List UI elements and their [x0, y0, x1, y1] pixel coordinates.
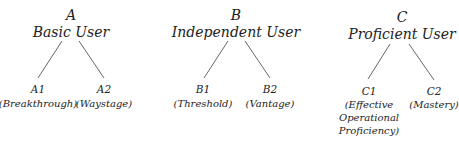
link-b-b2	[245, 41, 270, 78]
link-a-a1	[38, 41, 62, 78]
sublevel-label: A2	[97, 84, 111, 95]
description-line: Operational	[339, 111, 400, 124]
group-title: Basic User	[33, 25, 110, 39]
group-title: Proficient User	[348, 27, 456, 41]
link-a-a2	[79, 41, 104, 78]
sublevel-description: (Breakthrough)	[0, 97, 77, 110]
sublevel-description: (Waystage)	[76, 97, 132, 110]
level-label: B	[231, 8, 241, 22]
level-label: A	[66, 8, 76, 22]
link-c-c2	[409, 44, 434, 80]
level-label: C	[397, 10, 408, 24]
description-line: Proficiency)	[339, 124, 400, 137]
sublevel-description: (Mastery)	[409, 98, 459, 111]
sublevel-description: (Effective Operational Proficiency)	[339, 98, 400, 137]
sublevel-label: C1	[362, 86, 377, 97]
sublevel-label: A1	[31, 84, 45, 95]
description-line: (Effective	[339, 98, 400, 111]
link-b-b1	[204, 41, 228, 78]
group-title: Independent User	[172, 25, 300, 39]
sublevel-label: B2	[263, 84, 277, 95]
sublevel-label: B1	[196, 84, 210, 95]
link-c-c1	[368, 44, 390, 79]
sublevel-label: C2	[427, 86, 442, 97]
sublevel-description: (Threshold)	[174, 97, 233, 110]
sublevel-description: (Vantage)	[246, 97, 295, 110]
